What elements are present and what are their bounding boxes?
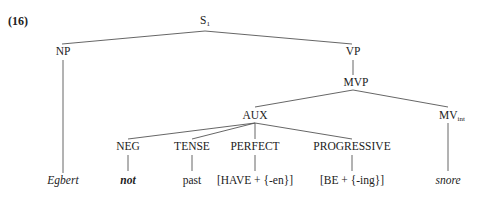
node-tense: TENSE (174, 141, 210, 153)
node-progressive: PROGRESSIVE (313, 141, 390, 153)
node-neg: NEG (116, 141, 140, 153)
leaf-be-ing: [BE + {-ing}] (320, 175, 384, 187)
leaf-not: not (120, 175, 135, 187)
node-np: NP (56, 46, 71, 58)
leaf-snore: snore (435, 175, 460, 187)
leaf-egbert: Egbert (47, 175, 78, 187)
tree-branches (0, 0, 485, 198)
leaf-past: past (183, 175, 202, 187)
node-mv-int: MVint (439, 110, 465, 123)
leaf-have-en: [HAVE + {-en}] (217, 175, 293, 187)
node-s: S1 (200, 15, 210, 28)
node-aux: AUX (243, 110, 268, 122)
example-number: (16) (8, 14, 28, 29)
node-mvp: MVP (344, 77, 369, 89)
node-perfect: PERFECT (230, 141, 279, 153)
node-vp: VP (346, 46, 361, 58)
